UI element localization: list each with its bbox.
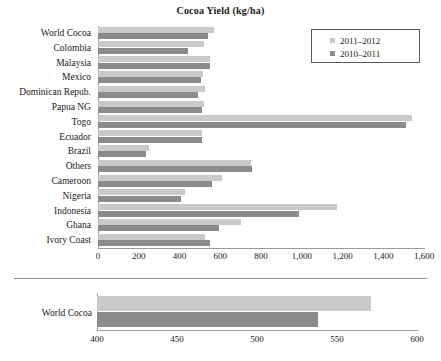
bar-series1 [98, 101, 204, 107]
bar-series2 [98, 166, 252, 172]
x-tick-label: 600 [214, 251, 228, 261]
bar-series2 [98, 33, 208, 39]
bar-series1 [98, 160, 251, 166]
detail-bar-series1 [97, 296, 371, 311]
detail-x-tick-label: 450 [170, 334, 184, 344]
category-label: Ghana [66, 220, 91, 230]
detail-x-axis-tick-labels: 400450500550600 [0, 334, 441, 348]
panel-divider [14, 278, 427, 279]
legend: 2011–2012 2010–2011 [311, 29, 420, 63]
x-axis-line [98, 248, 425, 249]
bar-series2 [98, 122, 406, 128]
detail-x-tick-label: 500 [250, 334, 264, 344]
bar-series2 [98, 225, 219, 231]
detail-x-axis-line [97, 330, 418, 331]
legend-label: 2010–2011 [340, 49, 380, 59]
detail-bars-area [97, 294, 417, 330]
x-tick-label: 200 [132, 251, 146, 261]
x-tick-label: 400 [173, 251, 187, 261]
bar-series1 [98, 189, 185, 195]
bar-series1 [98, 56, 210, 62]
page-title: Cocoa Yield (kg/ha) [0, 5, 441, 16]
category-label: Dominican Repub. [19, 87, 91, 97]
bar-series1 [98, 234, 205, 240]
bar-series2 [98, 151, 146, 157]
category-label: Colombia [54, 43, 91, 53]
detail-x-tick-label: 600 [410, 334, 424, 344]
bar-series1 [98, 145, 149, 151]
bar-series2 [98, 63, 210, 69]
detail-category-label: World Cocoa [42, 308, 92, 318]
detail-chart-panel: World Cocoa 400450500550600 [0, 288, 441, 361]
bar-series2 [98, 48, 188, 54]
x-axis-tick-labels: 02004006008001,0001,2001,4001,600 [0, 251, 441, 265]
category-label: World Cocoa [41, 28, 91, 38]
bar-series1 [98, 115, 412, 121]
bar-series1 [98, 27, 214, 33]
category-label: Cameroon [51, 176, 91, 186]
bar-series2 [98, 107, 202, 113]
x-tick-label: 1,200 [332, 251, 352, 261]
legend-swatch-icon [330, 38, 335, 43]
category-label: Ecuador [59, 132, 91, 142]
bar-series2 [98, 196, 181, 202]
legend-swatch-icon [330, 51, 335, 56]
legend-item-2011-2012: 2011–2012 [330, 34, 419, 47]
category-label: Others [66, 161, 91, 171]
category-label: Mexico [62, 72, 91, 82]
category-label: Nigeria [63, 191, 92, 201]
category-label: Papua NG [52, 102, 91, 112]
bar-series2 [98, 181, 212, 187]
category-axis-labels: World CocoaColombiaMalaysiaMexicoDominic… [0, 26, 94, 248]
bar-series1 [98, 130, 202, 136]
detail-x-tick-label: 400 [90, 334, 104, 344]
x-tick-label: 1,400 [373, 251, 393, 261]
bar-series1 [98, 175, 222, 181]
x-tick-label: 800 [254, 251, 268, 261]
bar-series2 [98, 137, 202, 143]
bar-series2 [98, 240, 210, 246]
x-tick-label: 1,000 [292, 251, 312, 261]
bar-series2 [98, 77, 201, 83]
bar-series1 [98, 219, 241, 225]
bar-series2 [98, 92, 198, 98]
bar-series2 [98, 211, 299, 217]
bar-series1 [98, 41, 204, 47]
legend-item-2010-2011: 2010–2011 [330, 47, 419, 60]
x-tick-label: 1,600 [414, 251, 434, 261]
detail-bar-series2 [97, 312, 318, 327]
bar-series1 [98, 71, 203, 77]
category-label: Togo [72, 117, 91, 127]
bar-series1 [98, 204, 337, 210]
category-label: Malaysia [56, 58, 91, 68]
detail-x-tick-label: 550 [330, 334, 344, 344]
bar-series1 [98, 86, 205, 92]
cocoa-yield-chart: Cocoa Yield (kg/ha) World CocoaColombiaM… [0, 0, 441, 361]
category-label: Indonesia [54, 206, 91, 216]
category-label: Ivory Coast [46, 235, 91, 245]
legend-label: 2011–2012 [340, 36, 380, 46]
x-tick-label: 0 [96, 251, 101, 261]
category-label: Brazil [68, 146, 91, 156]
